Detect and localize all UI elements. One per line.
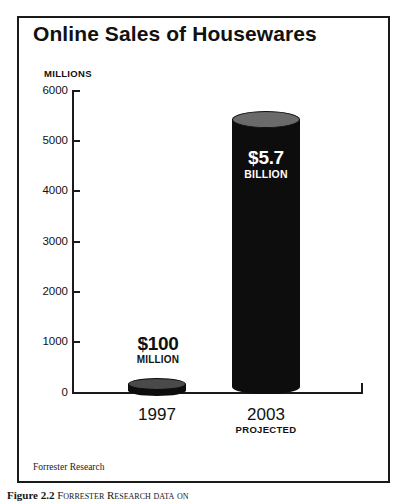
x-category-label-1997: 1997 <box>117 405 197 425</box>
bar-1997-value-label: $100 MILLION <box>118 334 198 366</box>
figure-caption: Figure 2.2 Forrester Research data on <box>7 489 407 501</box>
figure-caption-text: Forrester Research data on <box>57 489 188 501</box>
x-category-label-2003: 2003 PROJECTED <box>226 405 306 436</box>
bar-2003-value-secondary: BILLION <box>226 168 306 180</box>
figure-frame <box>17 16 390 483</box>
bar-1997-value-primary: $100 <box>118 334 198 354</box>
bar-2003-value-primary: $5.7 <box>226 147 306 168</box>
figure-caption-number: Figure 2.2 <box>7 489 54 501</box>
x-category-label-2003-sublabel: PROJECTED <box>226 424 306 436</box>
x-category-label-2003-year: 2003 <box>226 405 306 424</box>
y-axis-units-label: MILLIONS <box>44 68 92 79</box>
bar-2003-value-label: $5.7 BILLION <box>226 147 306 180</box>
source-note: Forrester Research <box>33 462 104 472</box>
chart-title: Online Sales of Housewares <box>33 22 317 46</box>
bar-1997-value-secondary: MILLION <box>118 354 198 366</box>
